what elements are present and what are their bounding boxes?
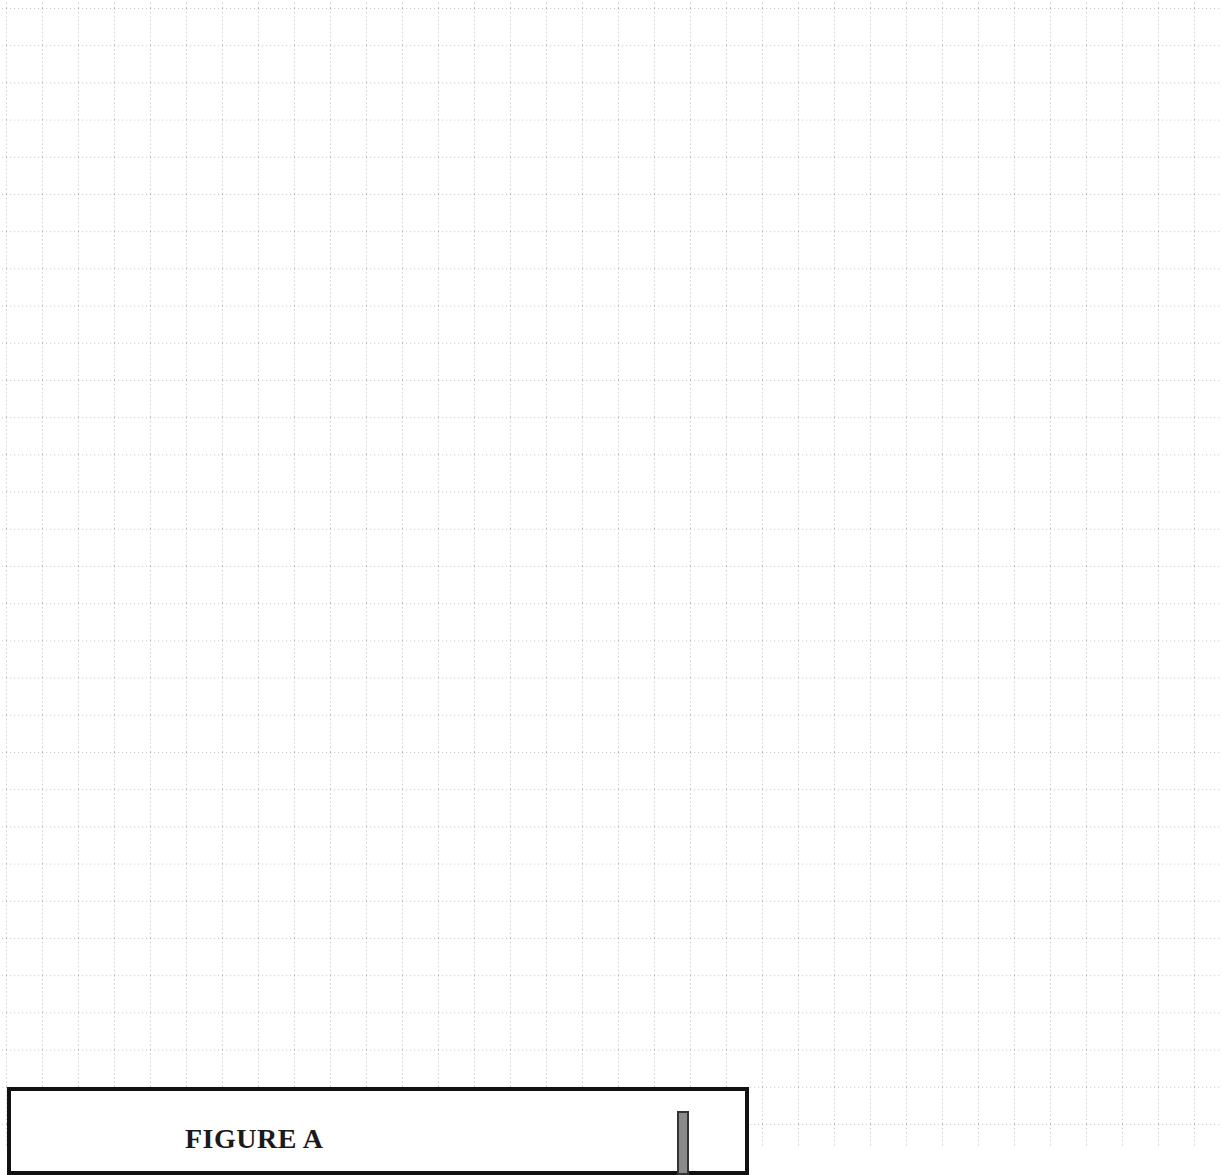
figure-title: FIGURE A [185,1125,324,1153]
figure-a-box: FIGURE A [7,1087,749,1175]
figure-bar-graphic [677,1111,689,1175]
